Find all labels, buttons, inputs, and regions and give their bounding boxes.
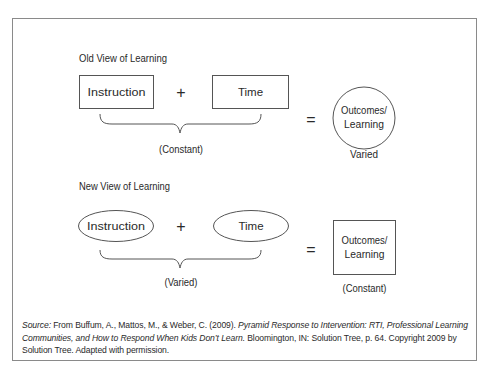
old-time-label: Time (238, 86, 263, 98)
source-label: Source: (22, 320, 51, 330)
new-inputs-label: (Varied) (165, 276, 198, 288)
new-plus-sign: + (176, 218, 185, 235)
old-view-section: Old View of Learning Instruction + Time … (79, 52, 395, 160)
old-view-heading: Old View of Learning (79, 52, 167, 64)
new-equals-sign: = (306, 241, 315, 258)
old-inputs-label: (Constant) (159, 143, 203, 155)
old-result-line1: Outcomes/ (341, 104, 388, 116)
old-brace (100, 114, 261, 133)
new-result-line2: Learning (345, 248, 385, 260)
new-result-line1: Outcomes/ (342, 234, 389, 246)
new-view-heading: New View of Learning (79, 180, 170, 192)
new-view-section: New View of Learning Instruction + Time … (79, 180, 396, 294)
old-result-label: Varied (350, 148, 378, 160)
source-authors: From Buffum, A., Mattos, M., & Weber, C.… (51, 320, 238, 330)
new-result-label: (Constant) (343, 282, 387, 294)
new-instruction-label: Instruction (87, 220, 145, 232)
new-time-label: Time (238, 220, 263, 232)
new-brace (100, 250, 261, 268)
old-instruction-label: Instruction (88, 86, 146, 98)
source-citation: Source: From Buffum, A., Mattos, M., & W… (22, 319, 472, 357)
old-result-line2: Learning (344, 118, 384, 130)
old-plus-sign: + (176, 84, 185, 101)
old-equals-sign: = (306, 111, 315, 128)
